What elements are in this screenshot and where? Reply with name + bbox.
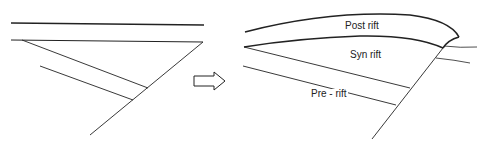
right-arrow-icon: [194, 72, 225, 90]
rift-diagram: Post rift Syn rift Pre - rift: [0, 0, 483, 147]
horizon-upper: [22, 40, 148, 88]
syn-rift-label: Syn rift: [350, 50, 381, 60]
horizon-lower: [40, 66, 133, 100]
top-horizon: [11, 40, 203, 42]
footwall-horizon: [436, 58, 470, 63]
diagram-svg: [0, 0, 483, 147]
post-rift-base: [244, 36, 443, 48]
fault-plane: [372, 48, 443, 139]
post-rift-label: Post rift: [345, 21, 379, 31]
surface-line: [11, 23, 204, 25]
before-panel: [11, 23, 204, 135]
pre-rift-horizon: [243, 66, 396, 105]
pre-rift-label: Pre - rift: [310, 89, 348, 99]
fault-plane: [90, 42, 203, 135]
syn-rift-base: [244, 47, 410, 88]
footwall-top: [444, 46, 477, 47]
after-panel: [243, 14, 477, 139]
